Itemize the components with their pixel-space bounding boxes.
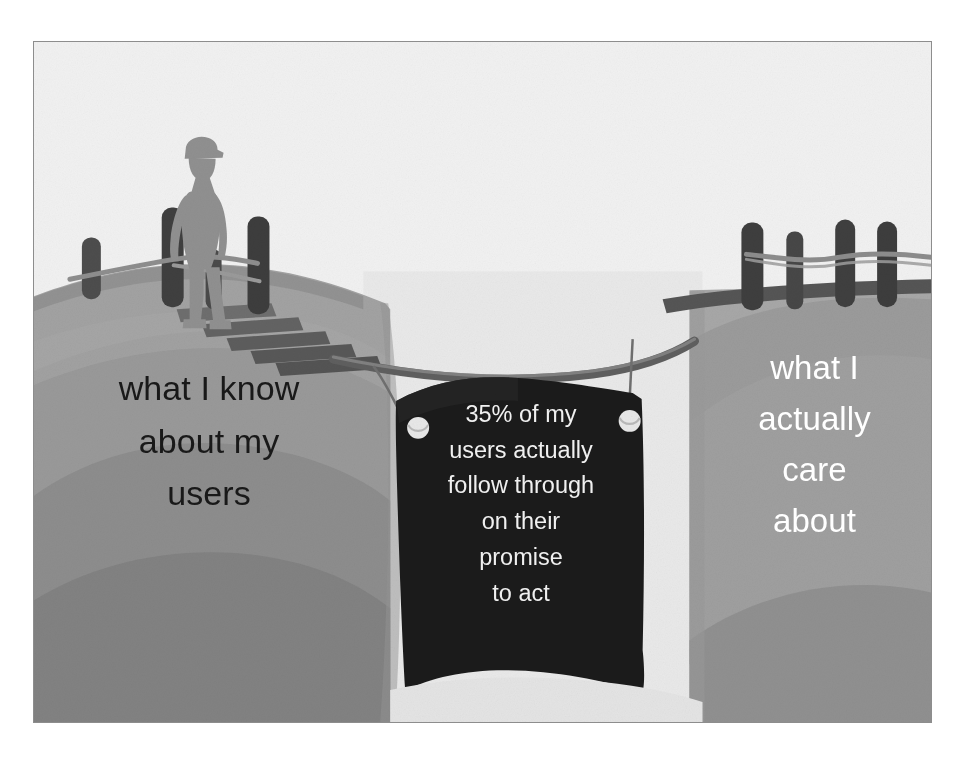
fence-post (741, 222, 763, 310)
right-cliff-shadow-strip (690, 291, 705, 722)
fence-post (786, 231, 803, 309)
illustration-frame: what I know about my users what I actual… (33, 41, 932, 723)
fence-post (877, 221, 897, 307)
fence-post (82, 237, 101, 299)
page-root: what I know about my users what I actual… (0, 0, 966, 759)
scene-artwork (34, 42, 931, 722)
banner-cloth (396, 377, 644, 692)
left-cliff-band-darkest (34, 552, 390, 722)
